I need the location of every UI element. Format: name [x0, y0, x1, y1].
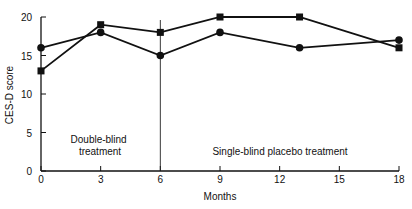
y-tick-label: 10	[21, 89, 33, 100]
x-tick-label: 3	[98, 174, 104, 185]
circle-marker	[395, 36, 403, 44]
y-tick-label: 5	[26, 128, 32, 139]
square-marker	[296, 14, 303, 21]
annotation-single-blind: Single-blind placebo treatment	[212, 146, 347, 157]
square-marker	[97, 21, 104, 28]
annotation-double-blind-line2: treatment	[79, 146, 121, 157]
y-tick-label: 20	[21, 12, 33, 23]
x-tick-label: 0	[38, 174, 44, 185]
x-tick-label: 18	[393, 174, 405, 185]
square-marker	[217, 14, 224, 21]
square-marker	[396, 44, 403, 51]
circle-marker	[216, 29, 224, 37]
y-tick-label: 0	[26, 166, 32, 177]
data-series	[37, 14, 403, 75]
annotation-double-blind-line1: Double-blind	[71, 134, 127, 145]
circle-marker	[296, 44, 304, 52]
x-tick-label: 15	[334, 174, 346, 185]
circle-marker	[97, 29, 105, 37]
circle-marker	[37, 44, 45, 52]
circle-marker	[157, 52, 165, 60]
x-tick-label: 6	[158, 174, 164, 185]
square-marker	[38, 67, 45, 74]
y-tick-label: 15	[21, 51, 33, 62]
y-axis-title: CES-D score	[4, 65, 15, 124]
x-tick-label: 9	[217, 174, 223, 185]
line-chart: 036912151805101520 CES-D score Months Do…	[0, 0, 412, 209]
x-tick-label: 12	[274, 174, 286, 185]
square-marker	[157, 29, 164, 36]
x-axis-title: Months	[204, 191, 237, 202]
annotation-double-blind: Double-blind treatment	[71, 134, 130, 157]
